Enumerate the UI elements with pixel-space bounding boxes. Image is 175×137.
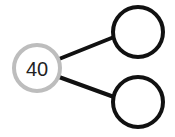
- connector-line-top: [59, 37, 114, 59]
- part-circle-top[interactable]: [113, 7, 163, 57]
- part-circle-bottom[interactable]: [113, 77, 163, 127]
- number-bond-diagram: 40: [0, 0, 175, 137]
- connector-line-bottom: [59, 77, 114, 97]
- whole-value-label: 40: [26, 58, 48, 80]
